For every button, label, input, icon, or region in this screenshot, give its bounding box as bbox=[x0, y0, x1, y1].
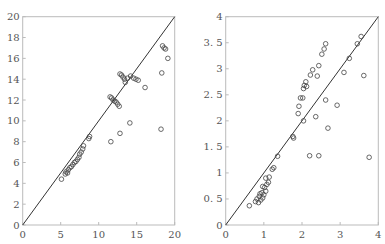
y-tick-label: 0 bbox=[13, 220, 19, 231]
y-tick-label: 0 bbox=[216, 220, 222, 231]
data-point bbox=[322, 47, 327, 52]
data-point bbox=[159, 71, 164, 76]
data-point bbox=[335, 103, 340, 108]
data-point bbox=[118, 131, 123, 136]
data-point bbox=[143, 85, 148, 90]
data-point bbox=[310, 68, 315, 73]
reference-line-y-equals-x bbox=[226, 17, 379, 225]
y-tick-label: 12 bbox=[7, 95, 20, 106]
data-point bbox=[316, 153, 321, 158]
x-tick-label: 4 bbox=[375, 229, 381, 240]
data-point bbox=[323, 98, 328, 103]
x-tick-label: 10 bbox=[92, 229, 105, 240]
x-tick-label: 5 bbox=[58, 229, 64, 240]
data-point bbox=[159, 127, 164, 132]
data-point bbox=[313, 114, 318, 119]
scatter-charts: 0510152002468101214161820 0123400. 511. … bbox=[0, 0, 385, 244]
left-scatter-plot: 0510152002468101214161820 bbox=[7, 11, 181, 240]
data-point bbox=[59, 177, 64, 182]
y-tick-label: 20 bbox=[7, 11, 20, 22]
y-tick-label: 1 bbox=[216, 167, 222, 178]
y-tick-label: 2 bbox=[216, 115, 222, 126]
y-tick-label: 8 bbox=[13, 136, 19, 147]
y-tick-label: 14 bbox=[7, 74, 20, 85]
data-point bbox=[81, 144, 86, 149]
data-point bbox=[163, 47, 168, 52]
y-tick-label: 2 bbox=[13, 199, 19, 210]
data-point bbox=[320, 52, 325, 57]
y-tick-label: 18 bbox=[7, 32, 20, 43]
y-tick-label: 10 bbox=[7, 115, 20, 126]
data-point bbox=[166, 56, 171, 61]
y-tick-label: 1. 5 bbox=[204, 141, 223, 152]
y-tick-label: 2. 5 bbox=[204, 89, 223, 100]
data-point bbox=[291, 136, 296, 141]
data-point bbox=[323, 41, 328, 46]
data-point bbox=[247, 203, 252, 208]
data-point bbox=[316, 63, 321, 68]
y-tick-label: 0. 5 bbox=[204, 193, 223, 204]
x-tick-label: 1 bbox=[261, 229, 267, 240]
right-scatter-plot: 0123400. 511. 522. 533. 54 bbox=[204, 11, 382, 240]
data-point bbox=[359, 34, 364, 39]
data-point bbox=[128, 121, 133, 126]
reference-line-y-equals-x bbox=[23, 17, 175, 225]
y-tick-label: 6 bbox=[13, 157, 19, 168]
data-point bbox=[308, 73, 313, 78]
data-point bbox=[362, 73, 367, 78]
x-tick-label: 15 bbox=[130, 229, 143, 240]
x-tick-label: 3 bbox=[337, 229, 343, 240]
data-point bbox=[297, 104, 302, 109]
data-point bbox=[307, 153, 312, 158]
x-tick-label: 0 bbox=[223, 229, 229, 240]
data-point bbox=[326, 126, 331, 131]
y-tick-label: 3 bbox=[216, 63, 222, 74]
y-tick-label: 16 bbox=[7, 53, 20, 64]
data-point bbox=[296, 111, 301, 116]
y-tick-label: 4 bbox=[13, 178, 19, 189]
x-tick-label: 20 bbox=[168, 229, 181, 240]
x-tick-label: 0 bbox=[20, 229, 26, 240]
y-tick-label: 4 bbox=[216, 11, 222, 22]
x-tick-label: 2 bbox=[299, 229, 305, 240]
data-point bbox=[342, 70, 347, 75]
y-tick-label: 3. 5 bbox=[204, 37, 223, 48]
data-point bbox=[315, 74, 320, 79]
data-point bbox=[367, 155, 372, 160]
data-point bbox=[109, 139, 114, 144]
